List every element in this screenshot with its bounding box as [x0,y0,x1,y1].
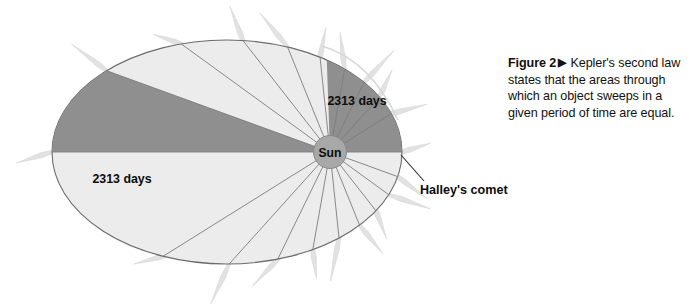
sector-left-label: 2313 days [92,172,151,186]
comet-leader-line [401,155,424,181]
caption-lead: Figure 2 [508,56,556,70]
caption-marker-icon: ▶ [556,56,567,68]
sector-upper-label: 2313 days [327,94,386,108]
orbit-diagram: Sun 2313 days 2313 days Halley's comet [0,0,698,307]
sun-label: Sun [318,146,341,160]
figure-container: Sun 2313 days 2313 days Halley's comet F… [0,0,698,307]
figure-caption: Figure 2▶ Kepler's second law states tha… [508,55,688,122]
comet-label: Halley's comet [420,183,509,197]
